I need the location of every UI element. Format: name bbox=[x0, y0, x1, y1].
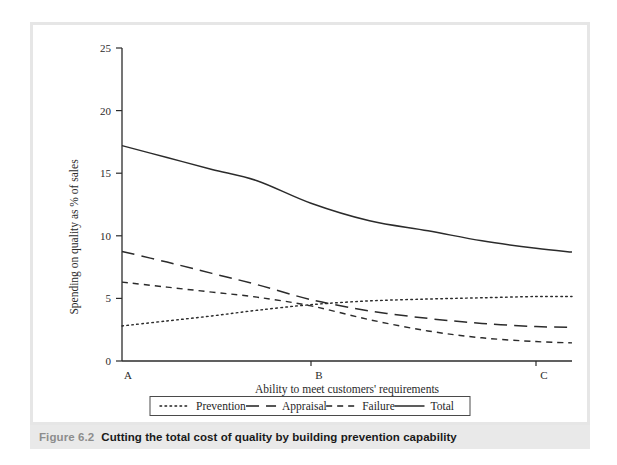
x-axis-title: Ability to meet customers' requirements bbox=[255, 383, 440, 396]
series-line-failure bbox=[122, 282, 572, 343]
y-tick-label: 15 bbox=[100, 167, 112, 179]
x-tick-label-b: B bbox=[315, 369, 322, 381]
x-tick-label-a: A bbox=[124, 369, 132, 381]
y-axis-title: Spending on quality as % of sales bbox=[68, 159, 81, 315]
chart-svg: Spending on quality as % of sales 051015… bbox=[30, 22, 590, 425]
y-tick-label: 20 bbox=[100, 105, 112, 117]
y-tick-label: 25 bbox=[100, 42, 112, 54]
y-tick-label: 5 bbox=[106, 292, 112, 304]
chart-container: Spending on quality as % of sales 051015… bbox=[30, 22, 590, 425]
figure-page: Spending on quality as % of sales 051015… bbox=[0, 0, 617, 465]
legend-label-prevention: Prevention bbox=[196, 400, 246, 412]
series-layer bbox=[122, 146, 572, 343]
y-tick-label: 0 bbox=[106, 355, 112, 367]
figure-number-label: Figure 6.2 bbox=[39, 431, 94, 443]
series-line-total bbox=[122, 146, 572, 252]
x-axis-ticks: ABC bbox=[124, 361, 548, 381]
x-tick-label-c: C bbox=[540, 369, 547, 381]
series-line-prevention bbox=[122, 296, 572, 326]
chart-legend: PreventionAppraisalFailureTotal bbox=[150, 397, 470, 416]
legend-label-failure: Failure bbox=[362, 400, 395, 412]
legend-label-total: Total bbox=[431, 400, 454, 412]
legend-label-appraisal: Appraisal bbox=[282, 400, 327, 413]
y-tick-label: 10 bbox=[100, 230, 112, 242]
y-axis-ticks: 0510152025 bbox=[100, 42, 122, 367]
caption-bar: Figure 6.2 Cutting the total cost of qua… bbox=[30, 425, 590, 449]
figure-title: Cutting the total cost of quality by bui… bbox=[101, 431, 456, 443]
